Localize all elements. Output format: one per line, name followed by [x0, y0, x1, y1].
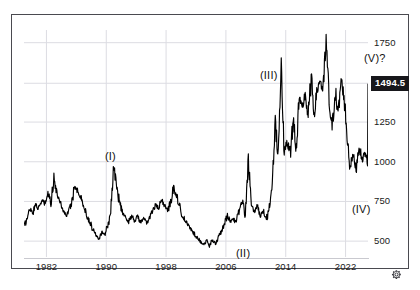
price-chart-svg [24, 30, 368, 257]
wave-label: (IV) [352, 203, 371, 215]
plot-area[interactable] [24, 30, 368, 257]
x-axis-tick-label: 2014 [275, 261, 297, 272]
wave-label: (II) [236, 247, 250, 259]
y-axis-tick-label: 500 [374, 236, 390, 246]
x-axis-tick-label: 2022 [335, 261, 357, 272]
x-axis-tick-label: 2006 [215, 261, 237, 272]
x-axis: 198219901998200620142022 [24, 261, 420, 281]
price-line [24, 34, 368, 247]
y-axis-tick-label: 1000 [374, 157, 396, 167]
horizontal-gridlines [24, 43, 368, 241]
gear-icon[interactable] [390, 267, 403, 280]
chart-screenshot: 500750100012501494.51750 198219901998200… [0, 0, 420, 290]
y-axis-tick-label: 1750 [374, 38, 396, 48]
y-axis-current-value-badge[interactable]: 1494.5 [371, 76, 409, 91]
x-axis-rule [24, 258, 369, 259]
chart-frame: 500750100012501494.51750 198219901998200… [11, 14, 409, 269]
x-axis-tick-label: 1982 [36, 261, 58, 272]
wave-label: (I) [105, 150, 116, 162]
wave-label: (III) [260, 69, 278, 81]
x-axis-tick-label: 1998 [155, 261, 177, 272]
y-axis-tick-label: 1250 [374, 117, 396, 127]
y-axis: 500750100012501494.51750 [370, 30, 420, 257]
y-axis-tick-label: 750 [374, 196, 390, 206]
x-axis-tick-label: 1990 [95, 261, 117, 272]
wave-label: (V)? [364, 52, 386, 64]
